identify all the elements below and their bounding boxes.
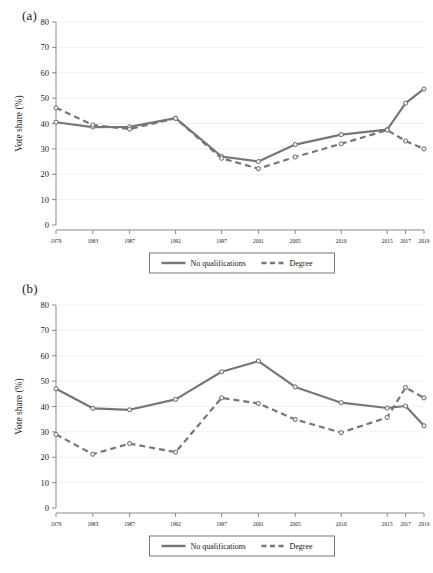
data-point-marker: [404, 101, 408, 105]
y-axis-title: Vote share (%): [14, 378, 25, 434]
x-tick-label: 2017: [400, 238, 411, 244]
y-tick-label: 50: [41, 376, 50, 386]
x-tick-label: 2005: [290, 238, 301, 244]
y-tick-label: 70: [41, 325, 50, 335]
data-point-marker: [293, 142, 297, 146]
y-axis-title: Vote share (%): [14, 95, 25, 151]
x-tick-label: 2019: [419, 521, 430, 527]
data-point-marker: [128, 127, 132, 131]
data-point-marker: [91, 123, 95, 127]
y-tick-label: 40: [41, 402, 50, 412]
y-tick-label: 0: [45, 503, 49, 513]
data-point-marker: [91, 406, 95, 410]
data-point-marker: [385, 128, 389, 132]
x-tick-label: 1983: [87, 238, 98, 244]
y-tick-label: 30: [41, 427, 50, 437]
y-tick-label: 10: [41, 195, 50, 205]
data-point-marker: [339, 431, 343, 435]
legend-label-no-qualifications: No qualifications: [191, 259, 246, 268]
panel-a: (a) 01020304050607080Vote share (%)19791…: [0, 0, 433, 286]
x-tick-label: 2001: [253, 521, 264, 527]
y-tick-label: 60: [41, 68, 50, 78]
x-tick-label: 2010: [336, 521, 347, 527]
data-point-marker: [385, 415, 389, 419]
x-tick-label: 2010: [336, 238, 347, 244]
y-tick-label: 30: [41, 144, 50, 154]
x-tick-label: 2017: [400, 521, 411, 527]
data-point-marker: [404, 404, 408, 408]
data-point-marker: [422, 87, 426, 91]
figure-root: (a) 01020304050607080Vote share (%)19791…: [0, 0, 433, 573]
legend-label-degree: Degree: [290, 542, 314, 551]
data-point-marker: [256, 401, 260, 405]
series-line-solid: [56, 361, 424, 426]
data-point-marker: [91, 452, 95, 456]
data-point-marker: [54, 432, 58, 436]
data-point-marker: [174, 397, 178, 401]
data-point-marker: [293, 385, 297, 389]
data-point-marker: [404, 385, 408, 389]
x-tick-label: 1979: [51, 238, 62, 244]
data-point-marker: [404, 139, 408, 143]
y-tick-label: 80: [41, 300, 50, 310]
y-tick-label: 20: [41, 452, 50, 462]
x-tick-label: 2005: [290, 521, 301, 527]
x-tick-label: 2001: [253, 238, 264, 244]
y-tick-label: 20: [41, 169, 50, 179]
y-tick-label: 60: [41, 351, 50, 361]
x-tick-label: 1983: [87, 521, 98, 527]
data-point-marker: [54, 387, 58, 391]
data-point-marker: [385, 406, 389, 410]
x-tick-label: 1992: [170, 521, 181, 527]
data-point-marker: [339, 133, 343, 137]
series-line-solid: [56, 89, 424, 162]
data-point-marker: [422, 424, 426, 428]
y-tick-label: 50: [41, 93, 50, 103]
y-tick-label: 80: [41, 17, 50, 27]
data-point-marker: [422, 147, 426, 151]
y-tick-label: 0: [45, 220, 49, 230]
x-tick-label: 1987: [124, 521, 135, 527]
x-tick-label: 1979: [51, 521, 62, 527]
y-tick-label: 10: [41, 478, 50, 488]
data-point-marker: [339, 401, 343, 405]
x-tick-label: 1997: [216, 521, 227, 527]
panel-b-plot: 01020304050607080Vote share (%)197919831…: [0, 283, 433, 569]
data-point-marker: [54, 120, 58, 124]
y-tick-label: 70: [41, 42, 50, 52]
data-point-marker: [128, 441, 132, 445]
x-tick-label: 2019: [419, 238, 430, 244]
panel-b: (b) 01020304050607080Vote share (%)19791…: [0, 283, 433, 569]
series-line-dashed: [56, 387, 424, 454]
data-point-marker: [220, 370, 224, 374]
data-point-marker: [128, 408, 132, 412]
x-tick-label: 1992: [170, 238, 181, 244]
data-point-marker: [220, 396, 224, 400]
data-point-marker: [174, 116, 178, 120]
panel-a-plot: 01020304050607080Vote share (%)197919831…: [0, 0, 433, 286]
data-point-marker: [256, 159, 260, 163]
legend-label-no-qualifications: No qualifications: [191, 542, 246, 551]
x-tick-label: 2015: [382, 521, 393, 527]
data-point-marker: [54, 106, 58, 110]
panel-b-svg: 01020304050607080Vote share (%)197919831…: [0, 283, 433, 569]
data-point-marker: [256, 359, 260, 363]
data-point-marker: [220, 156, 224, 160]
x-tick-label: 1987: [124, 238, 135, 244]
data-point-marker: [422, 396, 426, 400]
data-point-marker: [174, 450, 178, 454]
panel-a-svg: 01020304050607080Vote share (%)197919831…: [0, 0, 433, 286]
x-tick-label: 2015: [382, 238, 393, 244]
data-point-marker: [256, 167, 260, 171]
legend-label-degree: Degree: [290, 259, 314, 268]
data-point-marker: [339, 142, 343, 146]
data-point-marker: [293, 155, 297, 159]
x-tick-label: 1997: [216, 238, 227, 244]
y-tick-label: 40: [41, 119, 50, 129]
data-point-marker: [293, 417, 297, 421]
